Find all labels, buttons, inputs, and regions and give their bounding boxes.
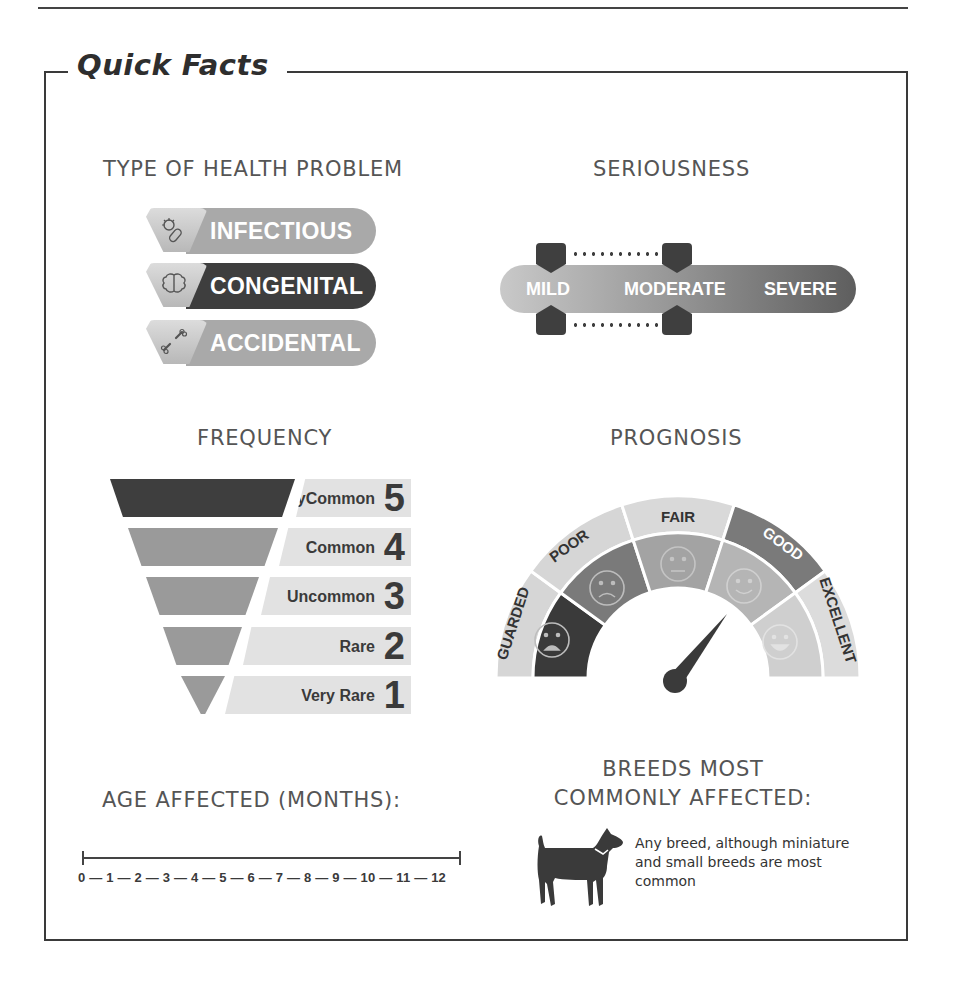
frequency-number: 5 [384,475,405,521]
prognosis-heading: PROGNOSIS [610,426,742,450]
frequency-level-4: Common 4 [279,528,411,566]
frequency-level-5: VeryCommon 5 [296,479,411,517]
funnel-level-3 [146,577,259,615]
seriousness-mild: MILD [526,265,570,313]
prognosis-gauge: GUARDED POOR FAIR GOOD EXCELLENT [490,480,870,710]
frequency-label: Rare [339,627,375,665]
frequency-level-2: Rare 2 [243,627,411,665]
breeds-description: Any breed, although miniature and small … [635,834,855,891]
funnel-level-5 [110,479,295,517]
brain-icon [160,271,188,299]
gauge-needle [663,614,727,693]
health-type-accidental: ACCIDENTAL [146,320,376,366]
age-range-line [83,857,460,859]
funnel-level-2 [163,627,242,665]
frequency-level-3: Uncommon 3 [261,577,411,615]
box-border-top-right [287,71,908,73]
range-dotted-line-bottom [571,323,659,327]
funnel-level-4 [128,528,278,566]
microbe-icon [160,216,188,244]
frequency-heading: FREQUENCY [197,426,332,450]
health-type-infectious: INFECTIOUS [146,208,376,254]
frequency-number: 4 [384,524,405,570]
age-affected-heading: AGE AFFECTED (MONTHS): [102,788,401,812]
quick-facts-title: Quick Facts [77,48,269,82]
breeds-heading: BREEDS MOSTCOMMONLY AFFECTED: [538,755,828,813]
age-range-end-tick [459,851,461,865]
seriousness-severe: SEVERE [764,265,837,313]
pill-label: CONGENITAL [210,263,363,309]
seriousness-moderate: MODERATE [624,265,726,313]
health-type-congenital: CONGENITAL [146,263,376,309]
dog-icon [533,828,628,910]
range-dotted-line-top [571,252,659,256]
frequency-number: 2 [384,623,405,669]
pill-label: INFECTIOUS [210,208,352,254]
age-range-start-tick [82,851,84,865]
frequency-label: Common [306,528,375,566]
broken-bone-icon [160,328,188,356]
pill-label: ACCIDENTAL [210,320,361,366]
seriousness-heading: SERIOUSNESS [593,157,750,181]
age-scale-labels: 0 — 1 — 2 — 3 — 4 — 5 — 6 — 7 — 8 — 9 — … [78,870,446,885]
frequency-number: 1 [384,672,405,718]
frequency-level-1: Very Rare 1 [225,676,411,714]
gauge-label-fair: FAIR [661,508,695,525]
box-border-top-left [44,71,68,73]
type-of-health-problem-heading: TYPE OF HEALTH PROBLEM [103,157,403,181]
top-divider [38,7,908,9]
frequency-number: 3 [384,573,405,619]
frequency-label: Uncommon [287,577,375,615]
frequency-label: Very Rare [301,676,375,714]
